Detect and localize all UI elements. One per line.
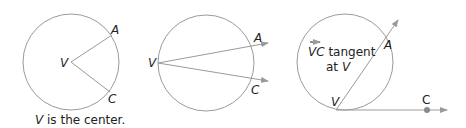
figure-tangent-angle: V A C VC tangent at V (297, 14, 447, 113)
label-c: C (108, 92, 117, 106)
circle-2 (158, 15, 254, 111)
ray-vc (158, 63, 268, 81)
label-c: C (422, 93, 430, 107)
label-c: C (251, 83, 260, 97)
point-c (424, 107, 430, 113)
label-v: V (148, 56, 157, 70)
segment-va (71, 35, 112, 62)
figure-vertex-on-circle: V A C (148, 15, 268, 111)
label-v: V (60, 56, 69, 70)
label-a: A (383, 38, 392, 52)
caption: V is the center. (35, 113, 125, 127)
label-a: A (253, 31, 262, 45)
angle-diagrams: V A C V is the center. V A C V A C VC ta… (0, 0, 466, 128)
label-v: V (331, 95, 340, 109)
tangent-note-line2: at V (326, 60, 351, 74)
figure-central-angle: V A C V is the center. (23, 14, 125, 127)
segment-vc (71, 62, 110, 92)
tangent-note-line1: VC tangent (308, 45, 376, 59)
ray-va (158, 43, 268, 63)
label-a: A (110, 23, 119, 37)
